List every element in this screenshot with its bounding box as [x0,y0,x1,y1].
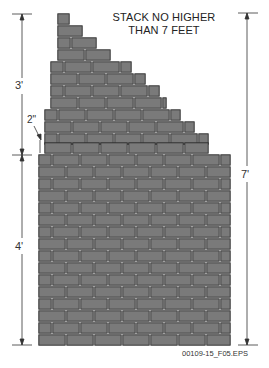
brick [109,155,135,165]
brick [165,251,191,261]
brick [39,191,65,201]
brick [221,227,230,237]
total-height-label: 7' [241,168,249,180]
brick [72,38,96,48]
brick [39,251,51,261]
brick [109,323,135,333]
brick [207,263,230,273]
brick [193,299,219,309]
brick [53,227,79,237]
brick [79,74,105,84]
brick [193,323,219,333]
brick [39,215,65,225]
brick [95,263,121,273]
brick [193,227,219,237]
brick [137,227,163,237]
brick [179,215,205,225]
setback-label: 2" [27,114,36,126]
brick [67,263,93,273]
brick [101,143,127,153]
brick [58,26,82,36]
brick [207,167,230,177]
brick [123,311,149,321]
brick [157,122,183,132]
brick [53,155,79,165]
brick [185,122,194,132]
brick [107,74,133,84]
brick [207,287,230,297]
brick [53,179,79,189]
brick [207,335,230,345]
brick [93,86,119,96]
brick [123,263,149,273]
brick [39,335,65,345]
brick [39,239,65,249]
brick [39,275,51,285]
brick [185,143,208,153]
brick [165,227,191,237]
brick [39,263,65,273]
brick [221,251,230,261]
brick [53,203,79,213]
brick [81,251,107,261]
lower-height-label: 4' [15,240,23,252]
brick [58,38,70,48]
brick [193,251,219,261]
brick [109,251,135,261]
brick [123,239,149,249]
brick [67,287,93,297]
brick [51,98,77,108]
brick [67,239,93,249]
brick [95,335,121,345]
brick [123,287,149,297]
brick [163,98,166,108]
brick [109,299,135,309]
brick [39,287,65,297]
brick [179,191,205,201]
brick [123,167,149,177]
brick [123,335,149,345]
brick [81,155,107,165]
brick [73,122,99,132]
brick [179,287,205,297]
brick [151,191,177,201]
brick [81,227,107,237]
brick [86,50,110,60]
brick [221,203,230,213]
brick-stacking-diagram: STACK NO HIGHER THAN 7 FEET 3' 4' 7' 2" … [0,0,269,368]
brick [221,275,230,285]
brick [45,110,57,120]
brick [151,263,177,273]
brick [53,323,79,333]
brick [221,155,230,165]
brick [53,251,79,261]
brick [151,215,177,225]
brick [221,179,230,189]
brick [58,14,69,24]
brick [165,275,191,285]
brick [221,299,230,309]
brick [193,155,219,165]
brick [109,179,135,189]
brick [121,86,147,96]
brick [87,110,113,120]
brick [59,110,85,120]
brick [179,167,205,177]
brick [65,86,91,96]
stacking-caption: STACK NO HIGHER THAN 7 FEET [104,11,224,37]
brick [151,287,177,297]
brick [95,191,121,201]
brick [193,203,219,213]
brick [165,299,191,309]
brick [81,323,107,333]
brick [81,299,107,309]
setback-leader-arrow [34,126,41,153]
brick [129,122,155,132]
brick [137,155,163,165]
brick [179,311,205,321]
brick [93,62,119,72]
brick [129,143,155,153]
brick [143,110,169,120]
brick [67,191,93,201]
brick [137,299,163,309]
